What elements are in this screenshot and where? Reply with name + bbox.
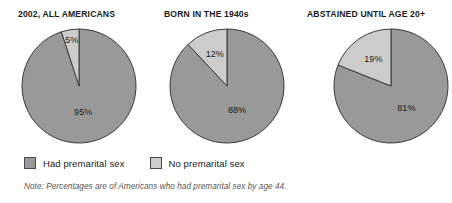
chart-panel-born-in-the-1940s: BORN IN THE 1940s 88% 12% bbox=[152, 0, 302, 150]
chart-legend: Had premarital sex No premarital sex bbox=[24, 154, 245, 172]
slice-label-had-premarital-sex-born-in-the-1940s: 88% bbox=[217, 105, 257, 115]
chart-panel-abstained-until-age-20: ABSTAINED UNTIL AGE 20+ 81% 19% bbox=[307, 0, 452, 150]
pie-svg-all-americans bbox=[21, 28, 137, 144]
legend-label-no-premarital-sex: No premarital sex bbox=[169, 158, 245, 169]
slice-label-no-premarital-sex-all-americans: 5% bbox=[56, 35, 88, 45]
pie-svg-born-in-the-1940s bbox=[169, 28, 285, 144]
legend-label-had-premarital-sex: Had premarital sex bbox=[43, 158, 125, 169]
slice-label-no-premarital-sex-abstained-until-age-20: 19% bbox=[357, 54, 389, 64]
legend-swatch-no-premarital-sex bbox=[150, 157, 162, 169]
chart-footnote: Note: Percentages are of Americans who h… bbox=[24, 182, 287, 191]
legend-item-had-premarital-sex: Had premarital sex bbox=[24, 157, 125, 169]
slice-label-no-premarital-sex-born-in-the-1940s: 12% bbox=[199, 49, 231, 59]
pie-chart-figure: 2002, ALL AMERICANS 95% 5% BORN IN THE 1… bbox=[0, 0, 452, 203]
slice-label-had-premarital-sex-abstained-until-age-20: 81% bbox=[386, 103, 426, 113]
slice-label-had-premarital-sex-all-americans: 95% bbox=[63, 107, 103, 117]
chart-title-born-in-the-1940s: BORN IN THE 1940s bbox=[164, 9, 314, 19]
chart-title-all-americans: 2002, ALL AMERICANS bbox=[18, 9, 168, 19]
pie-born-in-the-1940s: 88% 12% bbox=[169, 28, 285, 144]
legend-swatch-had-premarital-sex bbox=[24, 157, 36, 169]
chart-panel-all-americans: 2002, ALL AMERICANS 95% 5% bbox=[3, 0, 153, 150]
pie-abstained-until-age-20: 81% 19% bbox=[333, 28, 449, 144]
legend-item-no-premarital-sex: No premarital sex bbox=[150, 157, 245, 169]
pie-svg-abstained-until-age-20 bbox=[333, 28, 449, 144]
pie-all-americans: 95% 5% bbox=[21, 28, 137, 144]
chart-title-abstained-until-age-20: ABSTAINED UNTIL AGE 20+ bbox=[307, 9, 452, 19]
